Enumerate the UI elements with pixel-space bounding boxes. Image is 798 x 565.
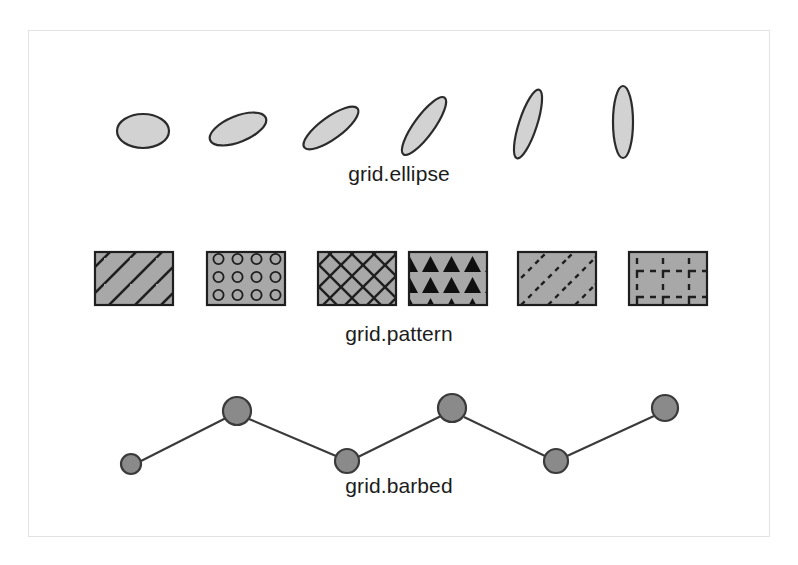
barbed-node-5 [544, 449, 568, 473]
barbed-row-label: grid.barbed [0, 474, 798, 498]
pattern-rect-3 [318, 252, 396, 305]
barbed-node-3 [335, 449, 359, 473]
pattern-rect-2 [207, 252, 285, 305]
ellipse-row-label: grid.ellipse [0, 162, 798, 186]
barbed-node-6 [652, 395, 678, 421]
ellipse-shape-2 [205, 106, 270, 153]
barbed-node-1 [121, 454, 141, 474]
pattern-rect-4 [409, 252, 487, 305]
ellipse-shape-6 [613, 86, 633, 158]
figure-canvas: grid.ellipse [0, 0, 798, 565]
ellipse-shape-4 [395, 92, 452, 160]
barbed-row: grid.barbed [0, 378, 798, 513]
pattern-rect-5 [518, 252, 596, 305]
pattern-rect-1 [95, 252, 173, 305]
pattern-row: grid.pattern [0, 232, 798, 362]
ellipse-shape-5 [508, 87, 547, 161]
ellipse-shape-1 [117, 114, 169, 148]
barbed-polyline [141, 416, 654, 461]
ellipse-shape-3 [298, 100, 364, 157]
barbed-node-4 [438, 394, 466, 422]
barbed-node-2 [223, 397, 251, 425]
pattern-row-label: grid.pattern [0, 322, 798, 346]
pattern-rect-6 [629, 252, 707, 305]
ellipse-row: grid.ellipse [0, 70, 798, 200]
